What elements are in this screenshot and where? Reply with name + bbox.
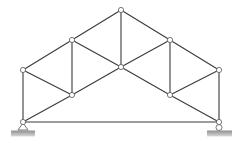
truss-member-EF <box>170 40 219 70</box>
joint-C <box>69 37 74 42</box>
truss-member-EI <box>121 40 170 67</box>
truss-member-FJ <box>170 70 219 95</box>
joint-G <box>216 119 221 124</box>
truss-member-HI <box>72 67 121 95</box>
joint-B <box>20 67 25 72</box>
joint-F <box>216 67 221 72</box>
truss-diagram <box>0 0 240 144</box>
ground-hatch <box>207 131 232 137</box>
joint-D <box>118 7 123 12</box>
truss-member-DE <box>121 10 170 40</box>
truss-member-IJ <box>121 67 170 95</box>
ground-hatch <box>11 131 35 137</box>
joint-E <box>167 37 172 42</box>
joint-H <box>69 92 74 97</box>
truss-drawing <box>0 0 240 144</box>
roller-support-icon <box>216 125 222 131</box>
truss-supports <box>11 123 232 137</box>
truss-member-AH <box>23 95 72 122</box>
truss-member-JG <box>170 95 219 122</box>
truss-member-CD <box>72 10 121 40</box>
joint-J <box>167 92 172 97</box>
truss-member-CI <box>72 40 121 67</box>
joint-I <box>118 64 123 69</box>
joint-A <box>20 119 25 124</box>
truss-member-BH <box>23 70 72 95</box>
truss-member-BC <box>23 40 72 70</box>
